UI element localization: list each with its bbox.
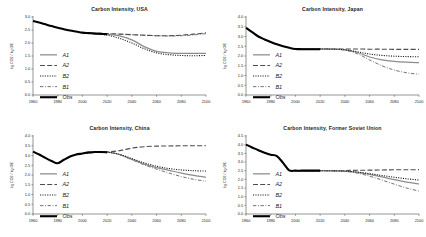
y-axis-title: kg CO2 / kg OE bbox=[223, 43, 227, 69]
x-tick-label: 2100 bbox=[415, 218, 424, 223]
y-tick-label: 2.5 bbox=[25, 27, 30, 32]
legend-item-a1: A1 bbox=[40, 52, 69, 58]
legend-item-b2: B2 bbox=[40, 73, 69, 79]
x-tick-label: 2040 bbox=[341, 218, 350, 223]
legend-label-b2: B2 bbox=[63, 192, 70, 198]
x-tick-label: 1980 bbox=[53, 218, 62, 223]
y-tick-label: 3.5 bbox=[238, 24, 243, 29]
x-tick-label: 1960 bbox=[29, 218, 38, 223]
legend-item-b1: B1 bbox=[40, 84, 69, 90]
chart-title: Carbon Intensity, Former Soviet Union bbox=[283, 125, 381, 131]
legend-label-a2: A2 bbox=[275, 181, 283, 187]
x-tick-label: 2080 bbox=[390, 218, 399, 223]
y-tick-label: 1.0 bbox=[25, 66, 31, 71]
legend-label-b1: B1 bbox=[63, 203, 70, 209]
x-tick-label: 2080 bbox=[177, 99, 186, 104]
x-tick-label: 1960 bbox=[242, 99, 251, 104]
x-tick-label: 2000 bbox=[291, 218, 300, 223]
legend-label-a2: A2 bbox=[62, 181, 70, 187]
y-tick-label: 0.0 bbox=[25, 211, 31, 216]
x-tick-label: 2020 bbox=[316, 218, 325, 223]
x-tick-label: 1980 bbox=[266, 218, 275, 223]
x-tick-label: 1960 bbox=[29, 99, 38, 104]
series-line-obs bbox=[246, 28, 320, 49]
legend-label-obs: Obs bbox=[276, 94, 286, 100]
x-tick-label: 2000 bbox=[291, 99, 300, 104]
x-tick-label: 2020 bbox=[103, 218, 112, 223]
y-tick-label: 3.0 bbox=[238, 34, 244, 39]
y-tick-label: 0.5 bbox=[238, 83, 243, 88]
legend-item-a2: A2 bbox=[253, 181, 282, 187]
y-tick-label: 0.0 bbox=[25, 92, 31, 97]
y-tick-label: 1.0 bbox=[238, 194, 244, 199]
x-tick-label: 2000 bbox=[78, 99, 87, 104]
x-tick-label: 1960 bbox=[242, 218, 251, 223]
y-tick-label: 2.0 bbox=[238, 177, 244, 182]
x-tick-label: 2040 bbox=[128, 99, 137, 104]
series-line-obs bbox=[33, 152, 107, 164]
y-tick-label: 1.0 bbox=[238, 73, 244, 78]
carbon-intensity-figure: Carbon Intensity, USA0.00.51.01.52.02.53… bbox=[0, 0, 426, 237]
legend-label-a2: A2 bbox=[275, 62, 283, 68]
y-tick-label: 1.5 bbox=[25, 53, 30, 58]
x-tick-label: 2000 bbox=[78, 218, 87, 223]
y-tick-label: 1.5 bbox=[238, 185, 243, 190]
legend-item-b2: B2 bbox=[40, 192, 69, 198]
x-tick-label: 2060 bbox=[152, 218, 161, 223]
legend-label-b2: B2 bbox=[276, 73, 283, 79]
legend-label-b1: B1 bbox=[276, 203, 283, 209]
chart-panel-former-soviet-union: Carbon Intensity, Former Soviet Union0.0… bbox=[213, 119, 426, 237]
y-tick-label: 3.5 bbox=[238, 151, 243, 156]
legend-item-b2: B2 bbox=[253, 73, 282, 79]
x-tick-label: 2060 bbox=[365, 218, 374, 223]
y-tick-label: 2.5 bbox=[238, 168, 243, 173]
series-line-a1 bbox=[295, 49, 419, 63]
y-tick-label: 3.0 bbox=[25, 153, 31, 158]
y-tick-label: 4.0 bbox=[238, 142, 244, 147]
legend-item-a1: A1 bbox=[40, 171, 69, 177]
y-tick-label: 0.5 bbox=[25, 202, 30, 207]
y-tick-label: 2.5 bbox=[238, 44, 243, 49]
x-tick-label: 1980 bbox=[266, 99, 275, 104]
y-tick-label: 3.0 bbox=[25, 14, 31, 19]
x-tick-label: 2040 bbox=[341, 99, 350, 104]
series-line-b1 bbox=[82, 152, 206, 181]
chart-panel-china: Carbon Intensity, China0.00.51.01.52.02.… bbox=[0, 119, 213, 237]
y-tick-label: 2.0 bbox=[25, 40, 31, 45]
y-tick-label: 0.5 bbox=[238, 203, 243, 208]
y-tick-label: 3.5 bbox=[25, 143, 30, 148]
x-tick-label: 2100 bbox=[202, 99, 211, 104]
x-tick-label: 2020 bbox=[316, 99, 325, 104]
x-tick-label: 2060 bbox=[152, 99, 161, 104]
series-line-b2 bbox=[82, 152, 206, 171]
legend-item-a1: A1 bbox=[253, 171, 282, 177]
x-tick-label: 2080 bbox=[177, 218, 186, 223]
legend-label-a1: A1 bbox=[62, 52, 70, 58]
x-tick-label: 2060 bbox=[365, 99, 374, 104]
x-tick-label: 2100 bbox=[202, 218, 211, 223]
y-tick-label: 1.5 bbox=[238, 63, 243, 68]
legend-item-b2: B2 bbox=[253, 192, 282, 198]
series-line-b2 bbox=[82, 33, 206, 56]
x-tick-label: 2020 bbox=[103, 99, 112, 104]
legend-item-a1: A1 bbox=[253, 52, 282, 58]
y-tick-label: 4.0 bbox=[25, 133, 31, 138]
legend-label-obs: Obs bbox=[63, 213, 73, 219]
series-line-a1 bbox=[295, 171, 419, 184]
legend-item-a2: A2 bbox=[40, 181, 69, 187]
series-line-obs bbox=[246, 145, 320, 171]
series-line-a1 bbox=[82, 152, 206, 177]
chart-title: Carbon Intensity, USA bbox=[91, 6, 148, 12]
y-tick-label: 2.0 bbox=[25, 172, 31, 177]
legend-item-a2: A2 bbox=[40, 62, 69, 68]
x-tick-label: 2100 bbox=[415, 99, 424, 104]
legend-label-a1: A1 bbox=[62, 171, 70, 177]
legend-label-a2: A2 bbox=[62, 62, 70, 68]
legend-item-a2: A2 bbox=[253, 62, 282, 68]
y-axis-title: kg CO2 / kg OE bbox=[223, 162, 227, 188]
legend-label-obs: Obs bbox=[63, 94, 73, 100]
legend-item-b1: B1 bbox=[253, 84, 282, 90]
y-tick-label: 4.0 bbox=[238, 14, 244, 19]
y-tick-label: 1.5 bbox=[25, 182, 30, 187]
x-tick-label: 2040 bbox=[128, 218, 137, 223]
